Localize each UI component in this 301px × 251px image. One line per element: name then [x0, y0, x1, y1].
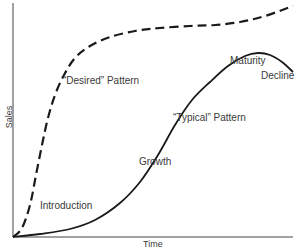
- maturity-label: Maturity: [230, 56, 266, 66]
- chart-canvas: [0, 0, 301, 251]
- decline-label: Decline: [261, 71, 294, 81]
- introduction-label: Introduction: [40, 201, 92, 211]
- desired-pattern-label: “Desired” Pattern: [63, 76, 139, 86]
- y-axis-label: Sales: [4, 102, 14, 132]
- typical-pattern-label: “Typical” Pattern: [173, 113, 246, 123]
- x-axis-label: Time: [143, 240, 163, 249]
- growth-label: Growth: [139, 157, 171, 167]
